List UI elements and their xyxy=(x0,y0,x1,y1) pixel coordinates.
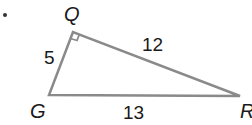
side-label-qr: 12 xyxy=(142,34,163,55)
side-label-gr: 13 xyxy=(123,102,144,123)
vertex-label-g: G xyxy=(30,100,46,122)
problem-number-dot xyxy=(3,13,7,17)
side-label-qg: 5 xyxy=(44,47,55,68)
triangle-diagram: Q G R 5 12 13 xyxy=(0,0,252,125)
vertex-label-q: Q xyxy=(64,3,80,25)
vertex-label-r: R xyxy=(240,100,252,122)
